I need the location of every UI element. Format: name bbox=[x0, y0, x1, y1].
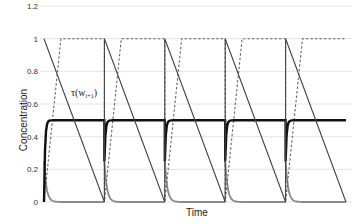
gridlines bbox=[40, 6, 352, 202]
y-tick-label: 0 bbox=[34, 198, 39, 207]
gray-decay-line bbox=[286, 161, 346, 202]
gray-decay-line bbox=[225, 161, 285, 202]
y-tick-label: 0.8 bbox=[27, 67, 39, 76]
y-tick-label: 0.2 bbox=[27, 165, 39, 174]
series-group bbox=[44, 39, 346, 202]
gray-decay-line bbox=[165, 161, 225, 202]
x-axis-label: Time bbox=[186, 207, 208, 218]
chart: 00.20.40.60.811.2 Concentration Time τ(w… bbox=[0, 0, 361, 224]
y-tick-label: 1 bbox=[34, 35, 39, 44]
y-tick-label: 1.2 bbox=[27, 2, 39, 11]
gray-decay-line bbox=[104, 161, 164, 202]
y-axis-label: Concentration bbox=[18, 89, 29, 151]
tau-annotation: τ(wi+1) bbox=[71, 87, 97, 99]
gray-decay-line bbox=[44, 161, 104, 202]
